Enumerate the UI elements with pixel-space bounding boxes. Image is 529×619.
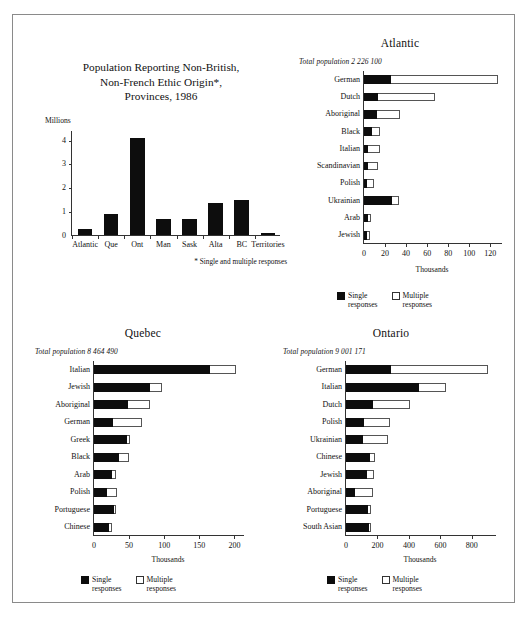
segment-multiple-responses: [419, 383, 446, 392]
bar-bc: [234, 200, 249, 235]
chart-ontario-title: Ontario: [271, 327, 511, 339]
segment-single-responses: [94, 488, 107, 497]
y-axis-unit-label: Millions: [45, 116, 71, 125]
chart-provinces: Population Reporting Non-British, Non-Fr…: [27, 43, 297, 263]
y-category-label: Jewish: [274, 470, 342, 479]
single-swatch-icon: [337, 292, 345, 300]
segment-single-responses: [94, 523, 109, 532]
x-tick-mark: [377, 536, 378, 539]
bar-atlantic: [78, 229, 93, 235]
bar-row: [94, 383, 162, 392]
y-category-label: Aboriginal: [274, 487, 342, 496]
y-category-label: German: [294, 75, 360, 84]
y-tick-mark: [69, 212, 72, 213]
segment-multiple-responses: [370, 453, 375, 462]
y-category-label: Ukrainian: [294, 196, 360, 205]
x-tick-label: 0: [79, 541, 109, 550]
segment-single-responses: [346, 488, 355, 497]
segment-multiple-responses: [368, 505, 370, 514]
legend-item-multiple: Multiple responses: [136, 575, 177, 593]
y-category-label: Italian: [274, 382, 342, 391]
y-category-label: South Asian: [274, 522, 342, 531]
x-tick-mark: [490, 244, 491, 247]
legend-item-single: Single responses: [81, 575, 122, 593]
segment-multiple-responses: [391, 365, 488, 374]
bar-row: [94, 453, 129, 462]
y-tick-mark: [69, 141, 72, 142]
chart-atlantic-title: Atlantic: [291, 37, 509, 49]
legend-single-text: Single responses: [338, 575, 368, 593]
segment-multiple-responses: [210, 365, 236, 374]
x-tick-label: 200: [219, 541, 249, 550]
segment-multiple-responses: [114, 505, 117, 514]
legend-multiple-line2: responses: [403, 300, 433, 309]
segment-single-responses: [346, 470, 367, 479]
segment-multiple-responses: [372, 127, 380, 136]
segment-multiple-responses: [364, 418, 390, 427]
single-swatch-icon: [327, 576, 335, 584]
segment-multiple-responses: [368, 162, 377, 171]
segment-multiple-responses: [367, 179, 374, 188]
legend-single-text: Single responses: [348, 291, 378, 309]
legend-single-line2: responses: [92, 584, 122, 593]
segment-single-responses: [346, 418, 364, 427]
bar-row: [364, 231, 370, 240]
x-tick-label: 800: [457, 541, 487, 550]
y-category-label: Chinese: [274, 452, 342, 461]
segment-multiple-responses: [109, 523, 112, 532]
segment-single-responses: [346, 365, 391, 374]
legend-multiple-text: Multiple responses: [147, 575, 177, 593]
segment-single-responses: [364, 196, 392, 205]
x-tick-mark: [409, 536, 410, 539]
segment-single-responses: [94, 418, 113, 427]
segment-single-responses: [364, 75, 391, 84]
y-category-label: Greek: [26, 435, 90, 444]
segment-single-responses: [364, 93, 378, 102]
x-tick-mark: [164, 536, 165, 539]
segment-multiple-responses: [107, 488, 117, 497]
x-tick-mark: [177, 236, 178, 239]
y-category-label: Italian: [26, 365, 90, 374]
x-tick-mark: [440, 536, 441, 539]
x-tick-label: 200: [362, 541, 392, 550]
x-tick-mark: [255, 236, 256, 239]
bar-row: [346, 383, 446, 392]
segment-multiple-responses: [367, 470, 374, 479]
legend-multiple-line1: Multiple: [403, 291, 429, 300]
y-category-label: Aboriginal: [26, 400, 90, 409]
bar-row: [364, 127, 380, 136]
x-tick-mark: [72, 236, 73, 239]
provinces-plot-area: 01234AtlanticQueOntManSaskAltaBCTerritor…: [71, 131, 280, 236]
segment-multiple-responses: [113, 418, 142, 427]
legend-multiple-text: Multiple responses: [393, 575, 423, 593]
y-category-label: Jewish: [26, 382, 90, 391]
bar-row: [364, 196, 399, 205]
segment-multiple-responses: [368, 214, 371, 223]
bar-row: [346, 470, 374, 479]
x-tick-label: 0: [331, 541, 361, 550]
x-category-label: Territories: [238, 240, 298, 249]
bar-row: [346, 453, 375, 462]
x-tick-label: 600: [425, 541, 455, 550]
y-category-label: Polish: [26, 487, 90, 496]
legend-item-multiple: Multiple responses: [382, 575, 423, 593]
segment-multiple-responses: [369, 523, 371, 532]
segment-single-responses: [346, 505, 368, 514]
legend-multiple-text: Multiple responses: [403, 291, 433, 309]
legend-single-line1: Single: [338, 575, 357, 584]
bar-row: [346, 523, 371, 532]
bar-row: [364, 179, 374, 188]
bar-row: [364, 145, 380, 154]
bar-row: [94, 400, 150, 409]
y-category-label: Jewish: [294, 230, 360, 239]
chart-quebec: Quebec Total population 8 464 490 Italia…: [23, 325, 263, 595]
legend-item-single: Single responses: [337, 291, 378, 309]
multiple-swatch-icon: [392, 292, 400, 300]
y-category-label: Polish: [294, 178, 360, 187]
segment-single-responses: [346, 523, 369, 532]
bar-row: [94, 523, 112, 532]
y-tick-mark: [69, 164, 72, 165]
segment-single-responses: [346, 453, 370, 462]
legend-multiple-line1: Multiple: [393, 575, 419, 584]
legend-single-text: Single responses: [92, 575, 122, 593]
